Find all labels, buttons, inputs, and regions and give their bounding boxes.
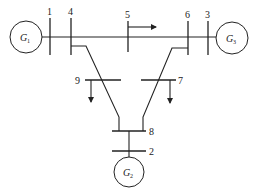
g1-sub: 1: [27, 38, 30, 44]
g2-sub: 2: [130, 173, 133, 179]
bus-9-label: 9: [75, 75, 80, 86]
generator-g1: G 1: [10, 21, 42, 53]
bus-4-label: 4: [68, 6, 73, 17]
bus-6-label: 6: [185, 9, 190, 20]
line-4-8: [71, 46, 119, 131]
bus-7-label: 7: [178, 75, 183, 86]
power-system-diagram: G 1 1 4 5 6 3 G 3 9 7 8 2 G 2: [0, 0, 257, 194]
bus-2-label: 2: [149, 146, 154, 157]
bus-5-label: 5: [125, 9, 130, 20]
bus-8-label: 8: [149, 126, 154, 137]
g3-sub: 3: [233, 39, 236, 45]
bus-3-label: 3: [205, 9, 210, 20]
generator-g3: G 3: [216, 22, 248, 54]
bus-1-label: 1: [47, 6, 52, 17]
generator-g2: G 2: [114, 157, 144, 187]
line-6-8: [143, 48, 188, 131]
